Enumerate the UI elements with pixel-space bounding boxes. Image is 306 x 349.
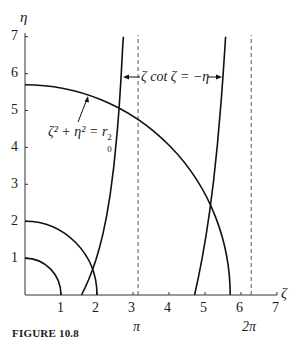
y-tick-label: 7: [11, 29, 18, 43]
circle-equation-base: ζ² + η² = r: [48, 124, 107, 139]
circle-annotation-arrow: [78, 99, 87, 122]
figure-plot: [0, 0, 306, 349]
y-tick-label: 4: [11, 140, 18, 154]
figure-caption: FIGURE 10.8: [12, 327, 79, 339]
cot-equation-label: ζ cot ζ = −η: [141, 70, 209, 84]
two-pi-label: 2π: [242, 320, 256, 334]
x-tick-label: 3: [128, 301, 135, 315]
x-axis-label: ζ: [281, 286, 287, 300]
x-tick-label: 1: [57, 301, 64, 315]
y-tick-label: 3: [11, 177, 18, 191]
cot-curve-branch-1: [82, 37, 124, 295]
circle-r0: [25, 85, 230, 295]
x-tick-label: 5: [200, 301, 207, 315]
x-tick-label: 4: [164, 301, 171, 315]
arrowhead-icon: [216, 75, 222, 80]
x-tick-label: 6: [236, 301, 243, 315]
x-tick-label: 7: [272, 301, 279, 315]
circle-equation-sub: 0: [107, 142, 112, 156]
circle-equation-label: ζ² + η² = r20: [48, 125, 114, 139]
y-tick-label: 5: [11, 103, 18, 117]
arrowhead-icon: [123, 75, 129, 80]
y-axis-label: η: [20, 10, 27, 24]
pi-label: π: [133, 320, 140, 334]
arrowhead-icon: [85, 96, 90, 103]
y-tick-label: 1: [11, 251, 18, 265]
circle-r1: [25, 258, 61, 295]
x-tick-label: 2: [92, 301, 99, 315]
y-tick-label: 6: [11, 66, 18, 80]
y-tick-label: 2: [11, 214, 18, 228]
